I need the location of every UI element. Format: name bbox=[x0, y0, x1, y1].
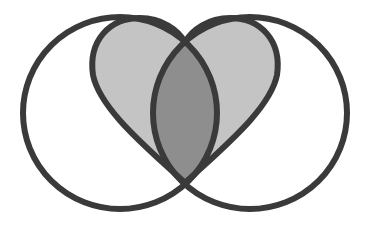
venn-heart-diagram bbox=[0, 0, 370, 225]
